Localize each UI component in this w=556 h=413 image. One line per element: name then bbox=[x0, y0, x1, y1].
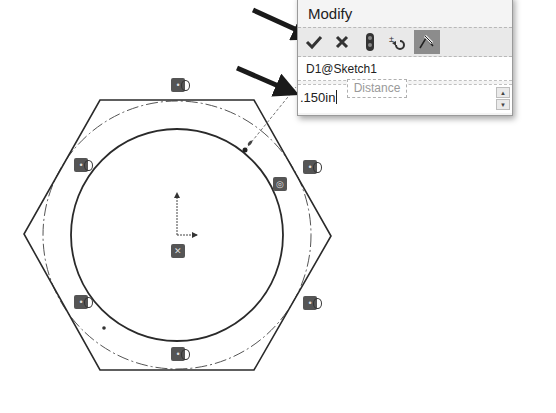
tangent-relation-icon[interactable]: • bbox=[303, 296, 317, 310]
dialog-title: Modify bbox=[298, 0, 512, 27]
text-caret bbox=[336, 90, 337, 104]
dimension-leader-line bbox=[245, 87, 296, 150]
dimension-value-input[interactable]: .150in bbox=[300, 90, 337, 105]
tangent-glyph: • bbox=[176, 81, 179, 90]
spin-up-button[interactable]: ▲ bbox=[496, 87, 510, 98]
coincident-glyph: ◎ bbox=[276, 180, 284, 189]
modify-dialog: Modify ± D1@Sketch1 .150in ▲ ▼ bbox=[297, 0, 513, 116]
check-icon bbox=[305, 34, 323, 50]
tangent-ring bbox=[84, 297, 93, 308]
tangent-glyph: • bbox=[308, 163, 311, 172]
distance-tooltip: Distance bbox=[347, 79, 407, 98]
tangent-ring bbox=[84, 160, 93, 171]
close-icon bbox=[334, 34, 350, 50]
tangent-ring bbox=[313, 162, 322, 173]
dimension-mark-icon bbox=[417, 32, 437, 52]
tangent-glyph: • bbox=[79, 161, 82, 170]
tangent-ring bbox=[313, 298, 322, 309]
tangent-relation-icon[interactable]: • bbox=[171, 78, 185, 92]
reverse-sense-icon: ± bbox=[388, 33, 408, 51]
tangent-relation-icon[interactable]: • bbox=[74, 158, 88, 172]
tangent-relation-icon[interactable]: • bbox=[74, 295, 88, 309]
dimension-endpoint[interactable] bbox=[243, 148, 248, 153]
dimension-value-text: .150in bbox=[300, 90, 335, 105]
tangent-glyph: • bbox=[308, 299, 311, 308]
tangent-glyph: • bbox=[79, 298, 82, 307]
tangent-relation-icon[interactable]: • bbox=[171, 347, 185, 361]
mark-dimension-button[interactable] bbox=[414, 30, 440, 54]
tangent-ring bbox=[181, 349, 190, 360]
rebuild-button[interactable] bbox=[358, 30, 382, 54]
cancel-button[interactable] bbox=[330, 30, 354, 54]
fix-glyph: ✕ bbox=[174, 247, 182, 256]
dimension-name-field: D1@Sketch1 bbox=[298, 57, 512, 81]
ok-button[interactable] bbox=[302, 30, 326, 54]
spin-down-button[interactable]: ▼ bbox=[496, 99, 510, 110]
traffic-light-icon bbox=[364, 32, 376, 52]
tangent-glyph: • bbox=[176, 350, 179, 359]
reverse-sense-button[interactable]: ± bbox=[386, 30, 410, 54]
value-spinner: ▲ ▼ bbox=[496, 87, 510, 111]
fix-relation-icon[interactable]: ✕ bbox=[171, 244, 185, 258]
sketch-point[interactable] bbox=[102, 326, 106, 330]
dialog-toolbar: ± bbox=[298, 27, 512, 57]
callout-arrow-2 bbox=[237, 68, 290, 91]
coincident-relation-icon[interactable]: ◎ bbox=[273, 177, 287, 191]
tangent-ring bbox=[181, 80, 190, 91]
tangent-relation-icon[interactable]: • bbox=[303, 160, 317, 174]
